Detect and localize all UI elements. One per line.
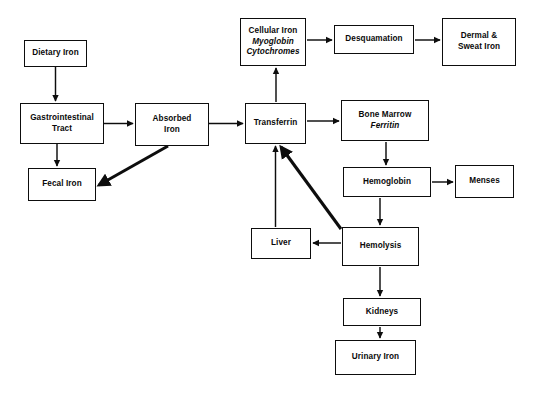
node-fecal-iron[interactable]: Fecal Iron bbox=[28, 168, 96, 201]
node-dermal-sweat-iron-line-1: Dermal & bbox=[461, 31, 498, 42]
node-cellular-iron-line-3: Cytochromes bbox=[246, 47, 299, 58]
node-cellular-iron[interactable]: Cellular IronMyoglobinCytochromes bbox=[240, 18, 306, 66]
node-gastrointestinal-tract-line-1: Gastrointestinal bbox=[30, 113, 94, 124]
node-bone-marrow-line-2: Ferritin bbox=[371, 121, 400, 132]
node-absorbed-iron-line-1: Absorbed bbox=[153, 114, 192, 125]
flowchart-canvas: Dietary IronGastrointestinalTractFecal I… bbox=[0, 0, 533, 395]
node-transferrin[interactable]: Transferrin bbox=[245, 103, 306, 144]
node-desquamation-line-1: Desquamation bbox=[345, 34, 402, 45]
node-liver-line-1: Liver bbox=[271, 238, 291, 249]
node-transferrin-line-1: Transferrin bbox=[254, 118, 298, 129]
node-dermal-sweat-iron[interactable]: Dermal &Sweat Iron bbox=[442, 18, 516, 66]
node-hemolysis-line-1: Hemolysis bbox=[360, 241, 402, 252]
node-dietary-iron[interactable]: Dietary Iron bbox=[24, 40, 87, 67]
node-hemoglobin[interactable]: Hemoglobin bbox=[343, 167, 431, 197]
node-kidneys-line-1: Kidneys bbox=[366, 307, 398, 318]
node-cellular-iron-line-1: Cellular Iron bbox=[249, 26, 298, 37]
node-dietary-iron-line-1: Dietary Iron bbox=[32, 48, 78, 59]
node-bone-marrow-line-1: Bone Marrow bbox=[359, 110, 412, 121]
node-urinary-iron-line-1: Urinary Iron bbox=[352, 352, 399, 363]
node-kidneys[interactable]: Kidneys bbox=[343, 298, 421, 326]
node-menses[interactable]: Menses bbox=[455, 165, 514, 198]
node-bone-marrow[interactable]: Bone MarrowFerritin bbox=[341, 100, 429, 141]
edge-hemolysis-to-transferrin bbox=[281, 147, 341, 229]
edge-absorbed-iron-to-fecal-iron bbox=[99, 146, 168, 185]
node-dermal-sweat-iron-line-2: Sweat Iron bbox=[458, 42, 500, 53]
node-urinary-iron[interactable]: Urinary Iron bbox=[335, 340, 416, 375]
node-menses-line-1: Menses bbox=[469, 176, 500, 187]
node-hemolysis[interactable]: Hemolysis bbox=[342, 227, 419, 266]
node-hemoglobin-line-1: Hemoglobin bbox=[363, 177, 411, 188]
node-fecal-iron-line-1: Fecal Iron bbox=[42, 179, 82, 190]
node-absorbed-iron-line-2: Iron bbox=[164, 125, 180, 136]
node-liver[interactable]: Liver bbox=[251, 228, 311, 259]
node-gastrointestinal-tract[interactable]: GastrointestinalTract bbox=[20, 103, 104, 144]
node-cellular-iron-line-2: Myoglobin bbox=[252, 37, 294, 48]
node-absorbed-iron[interactable]: AbsorbedIron bbox=[135, 103, 209, 146]
node-desquamation[interactable]: Desquamation bbox=[334, 25, 414, 54]
node-gastrointestinal-tract-line-2: Tract bbox=[52, 124, 72, 135]
